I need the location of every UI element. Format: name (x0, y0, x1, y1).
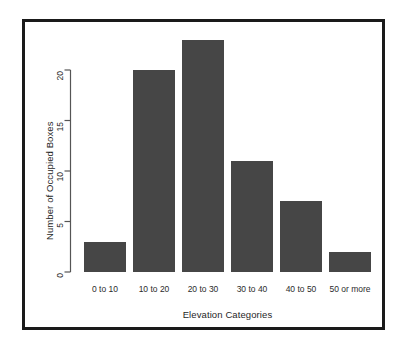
x-tick-label-3: 30 to 40 (224, 284, 280, 294)
y-tick-label-15: 15 (55, 122, 65, 136)
y-axis-title: Number of Occupied Boxes (44, 121, 55, 240)
y-tick-label-10: 10 (55, 172, 65, 186)
bar-0-to-10 (84, 242, 126, 272)
y-tick-label-5: 5 (55, 223, 65, 237)
bar-40-to-50 (280, 201, 322, 272)
x-tick-label-2: 20 to 30 (175, 284, 231, 294)
bar-50-or-more (329, 252, 371, 272)
y-tick-label-20: 20 (55, 71, 65, 85)
bar-10-to-20 (133, 70, 175, 272)
x-axis-title: Elevation Categories (84, 309, 371, 320)
bar-20-to-30 (182, 40, 224, 272)
y-tick-label-0: 0 (55, 273, 65, 287)
bar-30-to-40 (231, 161, 273, 272)
x-tick-label-0: 0 to 10 (77, 284, 133, 294)
x-tick-label-1: 10 to 20 (126, 284, 182, 294)
chart-canvas: 0 5 10 15 20 Number of Occupied Boxes 0 … (0, 0, 406, 348)
x-tick-label-5: 50 or more (320, 284, 380, 294)
